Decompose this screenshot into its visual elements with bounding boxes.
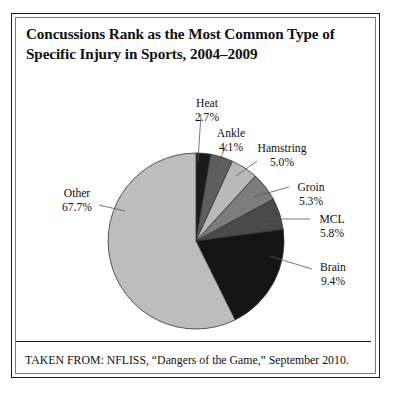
slice-label-hamstring-pct: 5.0% bbox=[234, 156, 330, 170]
slice-label-brain-pct: 9.4% bbox=[302, 275, 364, 289]
pie-chart: Heat 2.7% Ankle 4.1% Hamstring 5.0% Groi… bbox=[12, 14, 381, 339]
slice-label-hamstring: Hamstring 5.0% bbox=[234, 142, 330, 169]
slice-label-groin: Groin 5.3% bbox=[275, 181, 347, 208]
slice-label-other: Other 67.7% bbox=[46, 187, 108, 214]
slice-label-mcl-name: MCL bbox=[302, 213, 362, 227]
slice-label-heat-name: Heat bbox=[172, 97, 242, 111]
figure-frame: Concussions Rank as the Most Common Type… bbox=[11, 13, 380, 378]
slice-label-hamstring-name: Hamstring bbox=[234, 142, 330, 156]
slice-label-groin-pct: 5.3% bbox=[275, 195, 347, 209]
slice-label-other-pct: 67.7% bbox=[46, 201, 108, 215]
slice-label-groin-name: Groin bbox=[275, 181, 347, 195]
slice-label-other-name: Other bbox=[46, 187, 108, 201]
slice-label-mcl: MCL 5.8% bbox=[302, 213, 362, 240]
slice-label-heat: Heat 2.7% bbox=[172, 97, 242, 124]
slice-label-mcl-pct: 5.8% bbox=[302, 227, 362, 241]
slice-label-ankle-name: Ankle bbox=[196, 127, 266, 141]
slice-label-brain: Brain 9.4% bbox=[302, 261, 364, 288]
source-note: TAKEN FROM: NFLISS, “Dangers of the Game… bbox=[25, 353, 370, 368]
slice-label-brain-name: Brain bbox=[302, 261, 364, 275]
slice-label-heat-pct: 2.7% bbox=[172, 111, 242, 125]
source-divider bbox=[16, 341, 371, 342]
